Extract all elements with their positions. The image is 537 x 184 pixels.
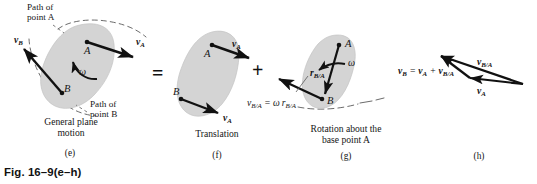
panel-f-caption: Translation xyxy=(180,129,254,140)
panel-e-caption-line1: General plane xyxy=(44,116,98,127)
rigid-body-shape xyxy=(177,31,239,116)
panel-f-velocity-a-top-subscript: A xyxy=(236,43,241,50)
panel-h-velocity-a-subscript: A xyxy=(481,90,486,97)
equals-operator: = xyxy=(152,62,163,85)
path-of-point-a-line1: Path of xyxy=(27,2,53,12)
panel-f-tag: (f) xyxy=(195,150,239,161)
panel-e-velocity-a-label: vA xyxy=(136,37,145,49)
panel-f-point-b-label: B xyxy=(173,86,179,98)
panel-e-velocity-b-subscript: B xyxy=(18,39,23,46)
panel-h-relative-velocity-subscript: B/A xyxy=(481,61,492,68)
panel-e-tag: (e) xyxy=(48,148,92,159)
panel-h-eq-equals: = xyxy=(407,65,418,76)
panel-g-relative-velocity-equation: vB/A=ωrB/A xyxy=(247,98,296,110)
panel-h-eq-vba-subscript: B/A xyxy=(443,70,454,77)
panel-g-caption: Rotation about the base point A xyxy=(288,124,404,145)
panel-g-point-b-label: B xyxy=(327,95,333,107)
plus-operator: + xyxy=(252,59,263,82)
panel-h-vector-equation: vB=vA+vB/A xyxy=(398,66,454,78)
panel-h-velocity-a-label: vA xyxy=(477,86,486,98)
panel-f-caption-line1: Translation xyxy=(195,128,238,139)
panel-h-relative-velocity-label: vB/A xyxy=(477,57,492,69)
figure-title: Fig. 16–9(e–h) xyxy=(4,166,81,178)
panel-g-omega-label: ω xyxy=(348,57,355,68)
panel-e-caption: General plane motion xyxy=(25,117,117,138)
panel-f-point-a-label: A xyxy=(204,48,210,60)
panel-g-tag: (g) xyxy=(324,151,368,162)
panel-f-velocity-a-bottom-label: vA xyxy=(223,113,232,125)
panel-f-velocity-a-top-label: vA xyxy=(232,39,241,51)
panel-g-eq-lhs-subscript: B/A xyxy=(251,102,261,109)
rigid-body-shape xyxy=(41,24,115,109)
reference-dashed-line-right xyxy=(360,98,384,103)
panel-g-position-vector-subscript: B/A xyxy=(314,72,325,79)
panel-f-velocity-a-bottom-subscript: A xyxy=(227,117,232,124)
panel-g-point-a-label: A xyxy=(345,38,351,50)
panel-g-eq-rhs-subscript: B/A xyxy=(286,102,296,109)
panel-e-omega-label: ω xyxy=(79,66,86,77)
panel-g-eq-operator: = xyxy=(262,97,273,108)
panel-e-point-b-label: B xyxy=(64,83,70,95)
panel-e-caption-line2: motion xyxy=(57,127,84,138)
figure-16-9-e-h: Path of point A Path of point B A B vA v… xyxy=(0,0,537,184)
panel-g-caption-line2: base point A xyxy=(322,134,370,145)
panel-g-caption-line1: Rotation about the xyxy=(311,123,382,134)
panel-e-velocity-a-subscript: A xyxy=(140,41,145,48)
path-of-point-a-line2: point A xyxy=(27,12,54,22)
panel-e-velocity-b-label: vB xyxy=(14,35,23,47)
panel-h-eq-plus: + xyxy=(427,65,438,76)
path-of-point-b-line1: Path of xyxy=(90,99,116,109)
panel-g-position-vector-label: rB/A xyxy=(310,68,325,80)
panel-g-eq-omega: ω xyxy=(273,97,280,108)
panel-h-tag: (h) xyxy=(457,151,501,162)
path-of-point-a-annotation: Path of point A xyxy=(27,2,54,23)
panel-e-point-a-label: A xyxy=(84,45,90,57)
